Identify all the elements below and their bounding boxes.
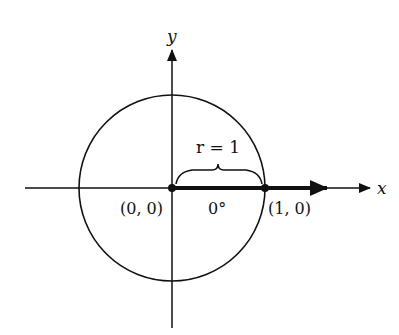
unit-point-label: (1, 0) xyxy=(268,199,311,218)
origin-point xyxy=(168,184,176,192)
radius-label: r = 1 xyxy=(196,137,240,157)
angle-label: 0° xyxy=(208,199,226,218)
x-axis-label: x xyxy=(377,178,387,198)
radius-brace xyxy=(176,164,262,184)
y-axis-label: y xyxy=(166,26,177,46)
unit-point xyxy=(261,184,269,192)
origin-label: (0, 0) xyxy=(120,199,163,218)
unit-circle-diagram: y x r = 1 (0, 0) 0° (1, 0) xyxy=(0,0,399,335)
